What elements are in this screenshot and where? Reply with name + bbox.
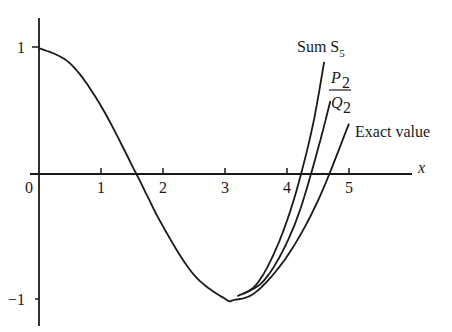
x-tick-label-0: 0 — [25, 179, 33, 196]
chart: 1 −1 012345 x Sum S5 P 2 Q 2 Exact value — [0, 0, 452, 332]
sum-s5-curve — [237, 62, 324, 296]
sum-s5-label-sub: 5 — [339, 47, 345, 59]
y-tick-label-1: 1 — [17, 39, 25, 56]
p2-label: P — [330, 69, 341, 86]
p2-label-sub: 2 — [342, 74, 350, 91]
x-tick-label-3: 3 — [221, 179, 229, 196]
q2-label: Q — [331, 94, 343, 111]
pade-p2-q2-curve — [244, 101, 331, 294]
x-tick-label-5: 5 — [345, 179, 353, 196]
sum-s5-label: Sum S5 — [297, 38, 345, 59]
x-axis-label: x — [417, 159, 425, 176]
q2-label-sub: 2 — [343, 99, 351, 116]
y-tick-label-minus1: −1 — [8, 291, 25, 308]
x-ticks: 012345 — [25, 168, 353, 196]
x-tick-label-1: 1 — [97, 179, 105, 196]
sum-s5-label-main: Sum S — [297, 38, 339, 55]
x-tick-label-2: 2 — [159, 179, 167, 196]
x-tick-label-4: 4 — [283, 179, 291, 196]
exact-value-label: Exact value — [355, 123, 430, 140]
